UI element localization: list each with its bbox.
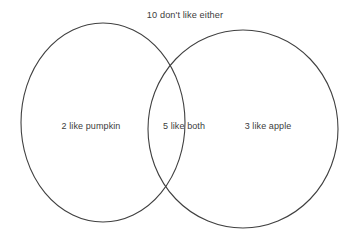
intersection-region-label: 5 like both [163,121,205,132]
right-region-label: 3 like apple [245,121,292,132]
left-region-label: 2 like pumpkin [62,121,121,132]
diagram-title: 10 don't like either [147,10,223,21]
venn-diagram-figure: 10 don't like either 2 like pumpkin 5 li… [0,0,360,240]
